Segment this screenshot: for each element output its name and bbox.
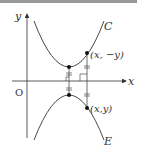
origin-label: O [15, 87, 23, 98]
point-lower [85, 106, 89, 110]
curve-e [34, 95, 104, 140]
curve-c-label: C [104, 20, 113, 33]
y-axis-label: y [14, 10, 22, 23]
right-angle-mark [80, 74, 87, 81]
curve-c [34, 21, 104, 67]
right-angle-mark [66, 77, 69, 81]
point-upper [85, 51, 89, 55]
curve-e-label: E [103, 135, 112, 148]
vertex-e-point [67, 93, 71, 97]
point-lower-label: (x,y) [90, 103, 112, 114]
x-axis-label: x [128, 75, 135, 88]
vertex-c-point [67, 65, 71, 69]
point-upper-label: (x, −y) [90, 49, 124, 60]
parabola-reflection-diagram: y x O C E (x, −y) (x,y) [0, 0, 145, 151]
